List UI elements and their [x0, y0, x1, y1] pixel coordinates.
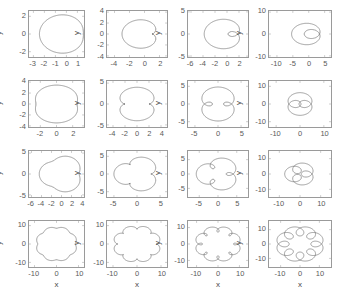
curve-path [39, 156, 80, 192]
x-axis-label: x [47, 281, 67, 289]
subplot-r2-c4: -10010-10010y [0, 0, 343, 299]
curve-plot [107, 221, 167, 267]
subplot-r1-c4: -10010-10-505y [0, 0, 343, 299]
y-tick-label: -5 [84, 122, 104, 130]
y-tick-label: 5 [84, 152, 104, 160]
curve-plot [188, 151, 248, 197]
x-tick-label: 10 [230, 270, 250, 278]
x-tick-label: 0 [290, 130, 310, 138]
axes-box [28, 10, 85, 58]
x-tick-label: 0 [135, 60, 155, 68]
curve-plot [188, 81, 248, 127]
x-tick-label: 0 [127, 130, 147, 138]
curve-plot [269, 151, 331, 197]
y-tick-label: -5 [165, 118, 185, 126]
curve-plot [29, 221, 84, 267]
x-tick-label: 4 [72, 200, 92, 208]
x-tick-label: -2 [30, 130, 50, 138]
x-tick-label: -5 [184, 130, 204, 138]
x-tick-label: 2 [63, 130, 83, 138]
y-tick-label: 0 [84, 170, 104, 178]
subplot-r3-c1: -505-6-4-2024y [0, 0, 343, 299]
x-tick-label: -4 [102, 130, 122, 138]
x-tick-label: -10 [265, 130, 285, 138]
y-axis-label: y [235, 166, 243, 180]
y-tick-label: 10 [246, 154, 266, 162]
y-axis-label: y [0, 96, 3, 110]
curve-plot [188, 11, 248, 57]
y-tick-label: 0 [246, 30, 266, 38]
y-tick-label: 5 [84, 78, 104, 86]
tick-marks [107, 151, 167, 197]
x-tick-label: 0 [208, 200, 228, 208]
curve-path [114, 227, 160, 262]
y-tick-label: 10 [246, 7, 266, 15]
y-tick-label: -5 [84, 188, 104, 196]
y-tick-label: 5 [165, 155, 185, 163]
y-tick-label: 0 [165, 30, 185, 38]
y-tick-label: 0 [6, 170, 26, 178]
x-tick-label: -4 [104, 60, 124, 68]
tick-marks [107, 221, 167, 267]
y-tick-label: 2 [6, 89, 26, 97]
curve-plot [29, 151, 84, 197]
tick-marks [269, 81, 331, 127]
curve-plot [188, 221, 248, 267]
x-tick-label: 5 [227, 200, 247, 208]
curve-path [37, 227, 77, 260]
y-tick-label: -5 [165, 53, 185, 61]
x-tick-label: -2 [119, 60, 139, 68]
subplot-r2-c3: -505-505y [0, 0, 343, 299]
x-tick-label: -10 [269, 200, 289, 208]
curve-plot [269, 11, 331, 57]
x-tick-label: -10 [266, 60, 286, 68]
y-axis-label: y [154, 166, 162, 180]
y-tick-label: 0 [246, 100, 266, 108]
x-tick-label: -2 [34, 60, 54, 68]
axes-box [187, 10, 249, 58]
x-tick-label: 2 [150, 60, 170, 68]
y-tick-label: 0 [6, 100, 26, 108]
curve-path [120, 87, 154, 120]
x-tick-label: -6 [21, 200, 41, 208]
tick-marks [269, 11, 331, 57]
subplot-r2-c2: -505-4-2024y [0, 0, 343, 299]
tick-marks [29, 11, 84, 57]
y-axis-label: y [0, 236, 3, 250]
tick-marks [188, 11, 248, 57]
y-tick-label: -2 [84, 41, 104, 49]
x-tick-label: -10 [186, 270, 206, 278]
x-tick-label: 0 [57, 60, 77, 68]
y-axis-label: y [235, 236, 243, 250]
axes-box [106, 150, 168, 198]
x-tick-label: -1 [45, 60, 65, 68]
curve-path [196, 158, 236, 190]
curve-path [292, 23, 320, 44]
x-tick-label: -2 [41, 200, 61, 208]
y-tick-label: -4 [84, 53, 104, 61]
subplot-r4-c2: -10010-10010yx [0, 0, 343, 299]
y-tick-label: 10 [165, 223, 185, 231]
y-tick-label: 0 [6, 240, 26, 248]
y-axis-label: y [154, 96, 162, 110]
axes-box [28, 220, 85, 268]
subplot-r4-c3: -10010-10010yx [0, 0, 343, 299]
axes-box [268, 80, 332, 128]
axes-box [106, 10, 168, 58]
curve-plot [29, 81, 84, 127]
x-tick-label: -2 [115, 130, 135, 138]
x-tick-label: -5 [103, 200, 123, 208]
y-tick-label: -5 [6, 192, 26, 200]
y-tick-label: 5 [165, 7, 185, 15]
y-tick-label: 0 [84, 100, 104, 108]
x-tick-label: 0 [47, 270, 67, 278]
y-tick-label: 10 [246, 225, 266, 233]
y-tick-label: 0 [165, 100, 185, 108]
x-tick-label: -4 [193, 60, 213, 68]
x-tick-label: 0 [52, 200, 72, 208]
y-tick-label: -4 [6, 123, 26, 131]
x-tick-label: 2 [230, 60, 250, 68]
y-tick-label: 2 [6, 12, 26, 20]
curve-plot [269, 221, 331, 267]
x-tick-label: 0 [290, 270, 310, 278]
